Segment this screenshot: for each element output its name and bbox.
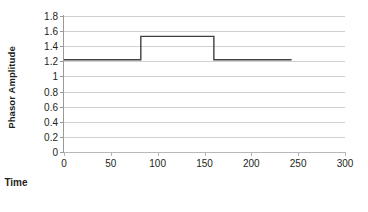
x-axis-tick-label: 50	[105, 158, 116, 169]
y-axis-tick-labels: 00.20.40.60.811.21.41.61.8	[22, 8, 62, 168]
x-axis-title: Time	[0, 177, 368, 188]
x-axis-tick-mark	[298, 152, 299, 156]
phasor-amplitude-chart: Phasor Amplitude 00.20.40.60.811.21.41.6…	[0, 0, 368, 212]
x-axis-tick-label: 0	[61, 158, 67, 169]
plot-area	[64, 16, 345, 152]
x-axis-tick-label: 150	[196, 158, 213, 169]
x-axis-tick-label: 100	[149, 158, 166, 169]
y-axis-tick-label: 1.2	[44, 56, 58, 67]
x-axis-tick-mark	[111, 152, 112, 156]
y-axis-title: Phasor Amplitude	[0, 0, 22, 175]
y-axis-tick-label: 0	[52, 147, 58, 158]
y-axis-tick-label: 0.6	[44, 101, 58, 112]
y-axis-tick-label: 1.8	[44, 11, 58, 22]
x-axis-tick-label: 250	[290, 158, 307, 169]
x-axis-tick-label: 300	[337, 158, 354, 169]
x-axis-tick-mark	[251, 152, 252, 156]
x-axis-tick-mark	[64, 152, 65, 156]
y-axis-tick-label: 1	[52, 71, 58, 82]
y-axis-tick-label: 0.8	[44, 86, 58, 97]
y-axis-tick-label: 0.2	[44, 131, 58, 142]
x-axis-tick-label: 200	[243, 158, 260, 169]
y-axis-tick-label: 1.4	[44, 41, 58, 52]
x-axis-tick-mark	[158, 152, 159, 156]
y-axis-tick-label: 1.6	[44, 26, 58, 37]
x-axis-tick-mark	[205, 152, 206, 156]
y-axis-tick-label: 0.4	[44, 116, 58, 127]
series-phasor-amplitude	[64, 16, 345, 152]
x-axis-tick-mark	[345, 152, 346, 156]
y-axis-title-text: Phasor Amplitude	[6, 46, 17, 129]
series-polyline	[64, 36, 292, 59]
x-axis-title-text: Time	[4, 177, 27, 188]
